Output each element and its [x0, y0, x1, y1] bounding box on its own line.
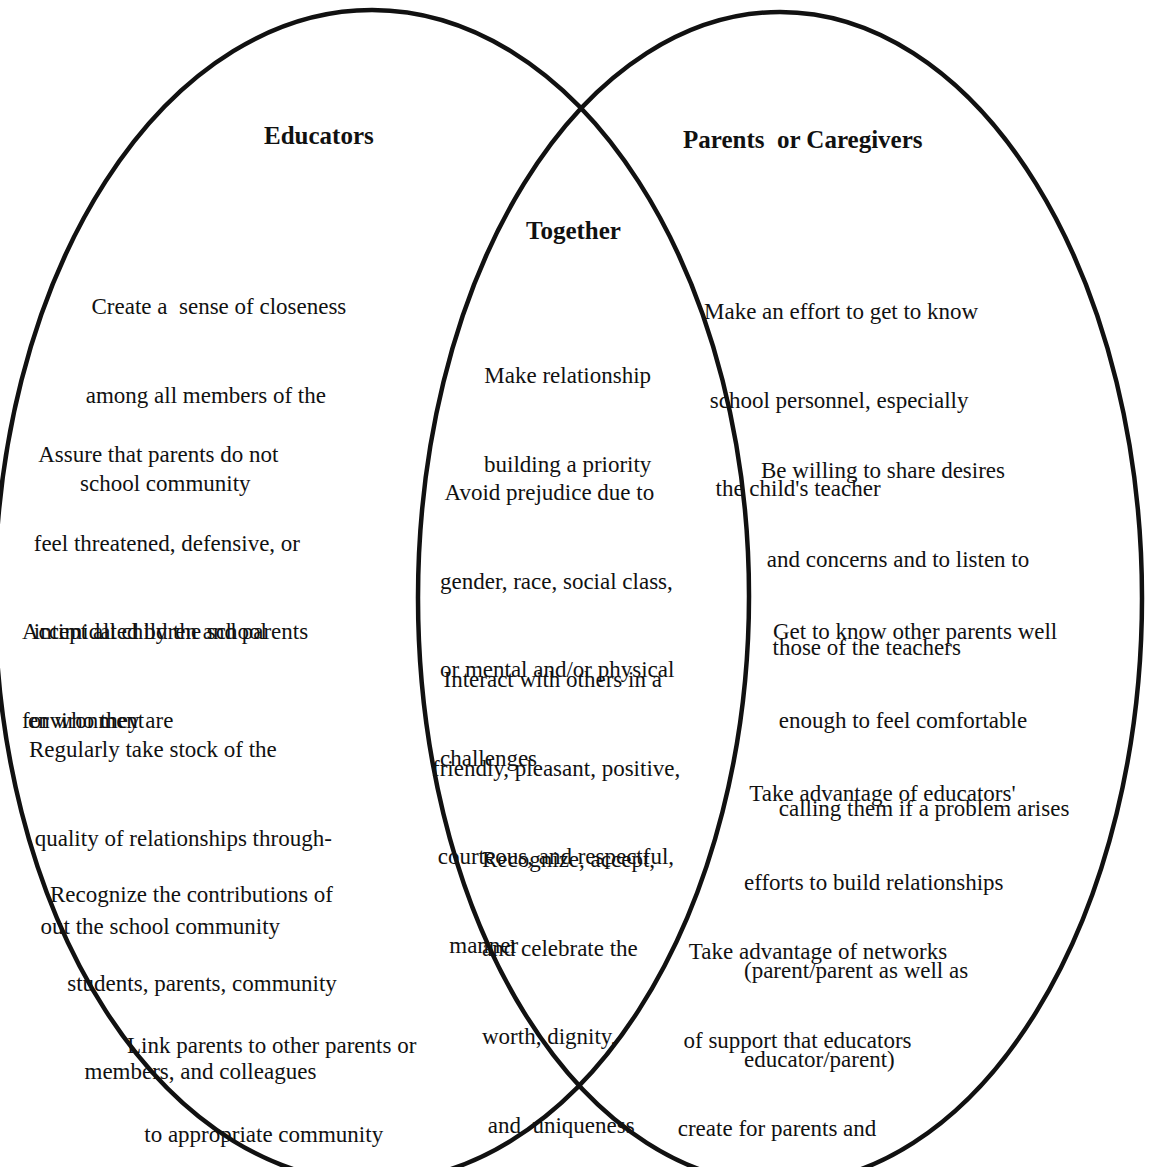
together-item: Recognize, accept, and celebrate the wor…: [482, 786, 655, 1167]
educators-item: Link parents to other parents or to appr…: [127, 972, 416, 1167]
parents-heading: Parents or Caregivers: [683, 127, 923, 152]
together-heading: Together: [526, 218, 621, 243]
parents-item: Take advantage of networks of support th…: [672, 878, 947, 1167]
educators-heading: Educators: [264, 123, 374, 148]
